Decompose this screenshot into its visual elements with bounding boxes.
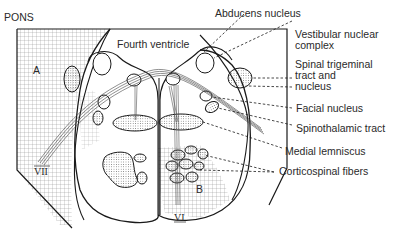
region-a-label: A [33,64,40,76]
title-pons: PONS [4,11,34,23]
label-medial-lemniscus: Medial lemniscus [285,145,366,157]
label-abducens-nucleus: Abducens nucleus [215,7,301,19]
label-vestibular-2: complex [295,39,335,51]
vestibular-nucleus-left [93,53,111,75]
region-b-label: B [196,183,203,195]
label-facial-nucleus: Facial nucleus [296,102,363,114]
label-fourth-ventricle: Fourth ventricle [117,38,190,50]
corticospinal-left [103,152,138,187]
corticospinal-left-small-1 [134,154,146,162]
pons-diagram: PONS A B Fourth ventricle Abducens nucle… [0,0,394,230]
trigeminal-nucleus-right [228,68,252,88]
nerve-vi-label: VI [174,212,185,223]
facial-nucleus-left [93,111,103,125]
nerve-vii-label: VII [34,166,48,177]
vestibular-nucleus-right [196,53,214,73]
trigeminal-nucleus-left [64,66,80,92]
label-spinothalamic: Spinothalamic tract [296,122,385,134]
facial-nucleus-right [203,99,220,115]
medial-lemniscus-right [159,114,203,130]
abducens-nucleus-right [166,73,180,85]
label-corticospinal: Corticospinal fibers [279,165,368,177]
label-trigeminal-3: nucleus [295,80,331,92]
corticospinal-left-small-2 [137,172,147,184]
